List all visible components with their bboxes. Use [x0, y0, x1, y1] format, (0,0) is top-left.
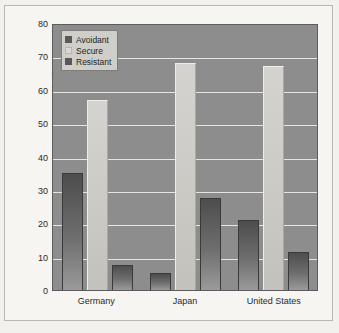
figure-container: Percentage of Infants 80706050403020100 …	[0, 0, 339, 333]
y-tick-label: 0	[26, 286, 48, 296]
y-tick-label: 40	[26, 153, 48, 163]
legend-swatch-icon	[65, 47, 72, 54]
bar	[288, 252, 309, 290]
bar	[175, 63, 196, 290]
y-tick-label: 30	[26, 186, 48, 196]
bar	[112, 265, 133, 290]
bar	[263, 66, 284, 290]
bar-group	[141, 25, 229, 290]
x-tick-label: Japan	[141, 296, 230, 306]
chart-legend: AvoidantSecureResistant	[61, 30, 118, 71]
x-tick-label: Germany	[52, 296, 141, 306]
bar-group	[229, 25, 317, 290]
bar	[87, 100, 108, 290]
bar	[238, 220, 259, 290]
legend-label: Resistant	[76, 57, 111, 67]
y-tick-label: 70	[26, 52, 48, 62]
legend-label: Secure	[76, 46, 103, 56]
y-axis-tick-labels: 80706050403020100	[22, 24, 48, 291]
legend-label: Avoidant	[76, 35, 109, 45]
y-tick-label: 80	[26, 19, 48, 29]
bar	[200, 198, 221, 290]
y-tick-label: 10	[26, 253, 48, 263]
y-tick-label: 20	[26, 219, 48, 229]
legend-swatch-icon	[65, 58, 72, 65]
legend-item: Secure	[65, 45, 111, 56]
legend-swatch-icon	[65, 36, 72, 43]
y-tick-label: 50	[26, 119, 48, 129]
bar	[62, 173, 83, 290]
y-tick-label: 60	[26, 86, 48, 96]
x-tick-label: United States	[229, 296, 318, 306]
plot-wrapper: AvoidantSecureResistant	[52, 24, 318, 291]
x-axis-tick-labels: GermanyJapanUnited States	[52, 296, 318, 306]
legend-item: Resistant	[65, 56, 111, 67]
bar	[150, 273, 171, 290]
legend-item: Avoidant	[65, 34, 111, 45]
